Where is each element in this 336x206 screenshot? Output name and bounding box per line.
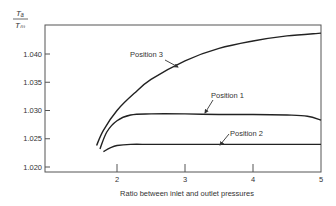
- series-line-position-2: [103, 144, 321, 151]
- annotation-label-position-2: Position 2: [230, 129, 263, 138]
- y-axis-label-numerator: Tₐ: [16, 9, 24, 18]
- annotation-position-3: Position 3: [130, 50, 178, 67]
- x-tick-label: 5: [319, 175, 323, 184]
- annotation-arrow-position-1: [205, 100, 213, 113]
- y-tick-label: 1.040: [23, 50, 42, 59]
- x-axis-ticks: 2345: [115, 164, 323, 184]
- annotation-arrow-position-3: [165, 60, 178, 67]
- y-axis-ticks: 1.0201.0251.0301.0351.040: [23, 50, 50, 172]
- y-tick-label: 1.030: [23, 106, 42, 115]
- x-axis-label: Ratio between inlet and outlet pressures: [120, 189, 254, 198]
- x-tick-label: 4: [251, 175, 255, 184]
- x-tick-label: 3: [183, 175, 187, 184]
- y-tick-label: 1.035: [23, 78, 42, 87]
- annotation-position-1: Position 1: [205, 91, 244, 113]
- annotation-position-2: Position 2: [220, 129, 263, 145]
- annotation-label-position-3: Position 3: [130, 50, 163, 59]
- y-tick-label: 1.025: [23, 134, 42, 143]
- chart-container: Tₐ Tₘ 1.0201.0251.0301.0351.040 2345 Pos…: [0, 0, 336, 206]
- y-tick-label: 1.020: [23, 163, 42, 172]
- x-tick-label: 2: [115, 175, 119, 184]
- series-line-position-1: [100, 114, 321, 149]
- annotation-label-position-1: Position 1: [211, 91, 244, 100]
- annotation-arrow-position-2: [220, 134, 229, 145]
- plot-frame: [45, 25, 321, 172]
- y-axis-label-denominator: Tₘ: [15, 21, 25, 30]
